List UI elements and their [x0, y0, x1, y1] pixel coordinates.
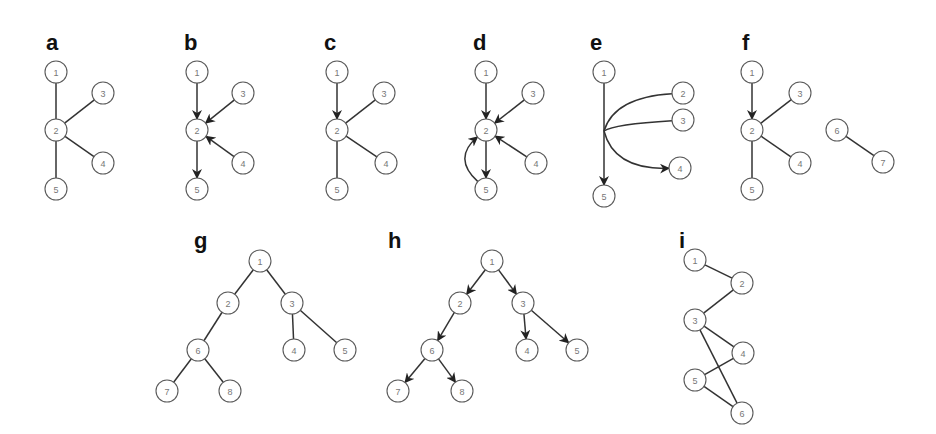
node-label: 3 [692, 316, 697, 326]
edge-3-2 [346, 100, 376, 123]
panel-label: b [184, 30, 197, 55]
graph-node-4: 4 [516, 339, 538, 361]
directed-edge-1-3 [499, 270, 517, 294]
panel-c: c12345 [324, 30, 397, 200]
node-label: 6 [195, 346, 200, 356]
graph-node-1: 1 [481, 250, 503, 272]
panel-h: h12364578 [387, 228, 588, 402]
panel-e: e12345 [590, 30, 694, 207]
directed-edge-3-4 [524, 314, 526, 339]
edges [174, 270, 337, 383]
node-label: 4 [100, 159, 105, 169]
graph-node-1: 1 [326, 61, 348, 83]
graph-node-1: 1 [684, 249, 706, 271]
edge-1-2 [235, 270, 254, 295]
panel-d: d12345 [465, 30, 547, 200]
graph-node-2: 2 [45, 119, 67, 141]
node-label: 4 [383, 159, 388, 169]
panel-b: b12345 [184, 30, 254, 200]
panel-label: a [46, 30, 59, 55]
graph-node-2: 2 [449, 292, 471, 314]
edge-3-2 [761, 100, 792, 124]
edge-4-2 [761, 136, 791, 157]
directed-edge-4-2 [495, 136, 527, 157]
node-label: 1 [483, 68, 488, 78]
graph-node-3: 3 [232, 82, 254, 104]
panel-label: h [388, 228, 401, 253]
node-label: 7 [395, 387, 400, 397]
graph-node-3: 3 [672, 109, 694, 131]
graph-node-4: 4 [789, 152, 811, 174]
node-label: 3 [530, 89, 535, 99]
node-label: 8 [227, 387, 232, 397]
graph-node-5: 5 [186, 178, 208, 200]
node-label: 1 [257, 257, 262, 267]
edge-4-2 [346, 136, 377, 157]
node-label: 1 [692, 256, 697, 266]
graph-node-5: 5 [593, 185, 615, 207]
node-label: 2 [53, 126, 58, 136]
graph-node-2: 2 [475, 119, 497, 141]
node-label: 2 [680, 89, 685, 99]
node-label: 3 [381, 89, 386, 99]
directed-edge-1-2 [467, 270, 486, 295]
graph-node-5: 5 [684, 369, 706, 391]
edges [604, 83, 672, 185]
node-label: 3 [680, 116, 685, 126]
hyperedge-branch-4 [604, 131, 669, 168]
node-label: 3 [289, 299, 294, 309]
hyperedge-branch-3 [604, 121, 672, 131]
graph-node-5: 5 [334, 339, 356, 361]
graph-node-5: 5 [475, 178, 497, 200]
node-label: 4 [740, 349, 745, 359]
node-label: 2 [457, 299, 462, 309]
node-label: 3 [797, 89, 802, 99]
graph-node-4: 4 [375, 152, 397, 174]
node-label: 5 [194, 185, 199, 195]
node-label: 1 [489, 257, 494, 267]
node-label: 3 [520, 299, 525, 309]
directed-edge-4-2 [206, 136, 234, 156]
graph-node-4: 4 [283, 339, 305, 361]
directed-edge-6-7 [405, 358, 425, 382]
node-label: 2 [194, 126, 199, 136]
panel-a: a12345 [45, 30, 114, 200]
graph-node-1: 1 [475, 61, 497, 83]
node-label: 6 [429, 346, 434, 356]
edge-1-3 [267, 270, 286, 295]
graph-node-5: 5 [566, 339, 588, 361]
directed-edge-2-6 [438, 312, 455, 340]
graph-node-6: 6 [731, 402, 753, 424]
node-label: 5 [574, 346, 579, 356]
nodes: 12345 [593, 61, 694, 207]
graph-node-3: 3 [522, 82, 544, 104]
graph-node-3: 3 [373, 82, 395, 104]
graph-node-6: 6 [826, 119, 848, 141]
graph-node-3: 3 [92, 82, 114, 104]
edge-4-5 [705, 358, 734, 374]
node-label: 5 [483, 185, 488, 195]
node-label: 4 [524, 346, 529, 356]
nodes: 12364578 [156, 250, 356, 402]
node-label: 1 [53, 68, 58, 78]
node-label: 2 [749, 126, 754, 136]
node-label: 4 [240, 159, 245, 169]
panel-i: i123456 [679, 228, 754, 424]
node-label: 6 [834, 126, 839, 136]
graph-figure: a12345b12345c12345d12345e12345f1234567g1… [0, 0, 936, 434]
panel-label: c [324, 30, 336, 55]
graph-node-5: 5 [741, 178, 763, 200]
nodes: 12345 [45, 61, 114, 200]
node-label: 1 [334, 68, 339, 78]
node-label: 4 [291, 346, 296, 356]
node-label: 5 [334, 185, 339, 195]
directed-edge-3-2 [206, 100, 235, 123]
graph-node-6: 6 [421, 339, 443, 361]
node-label: 2 [334, 126, 339, 136]
edge-5-6 [704, 386, 733, 406]
edges [752, 83, 874, 178]
node-label: 1 [194, 68, 199, 78]
panel-label: i [679, 228, 685, 253]
graph-node-3: 3 [789, 82, 811, 104]
hyperedge-branch-2 [604, 94, 672, 131]
